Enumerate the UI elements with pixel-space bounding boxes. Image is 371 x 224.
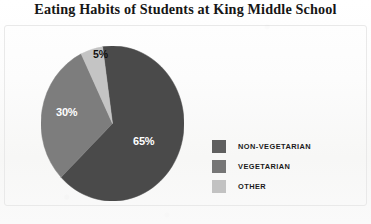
legend-swatch-icon — [212, 160, 226, 173]
pie-chart: 65% 30% 5% — [41, 46, 184, 201]
legend-item-label: OTHER — [238, 182, 266, 191]
legend-item-vegetarian[interactable]: VEGETARIAN — [212, 156, 311, 176]
legend-swatch-icon — [212, 140, 226, 153]
chart-legend: NON-VEGETARIAN VEGETARIAN OTHER — [212, 136, 311, 196]
pie-slice-label-other: 5% — [93, 48, 108, 60]
legend-swatch-icon — [212, 180, 226, 193]
pie-slice-label-non-vegetarian: 65% — [133, 135, 154, 147]
pie-svg — [41, 46, 184, 201]
page-title: Eating Habits of Students at King Middle… — [0, 1, 371, 18]
legend-item-non-vegetarian[interactable]: NON-VEGETARIAN — [212, 136, 311, 156]
legend-item-label: NON-VEGETARIAN — [238, 142, 311, 151]
legend-item-label: VEGETARIAN — [238, 162, 290, 171]
legend-item-other[interactable]: OTHER — [212, 176, 311, 196]
pie-slice-label-vegetarian: 30% — [56, 106, 77, 118]
